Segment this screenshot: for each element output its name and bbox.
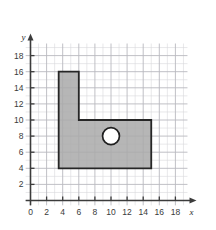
x-tick-label: 18 <box>171 207 181 217</box>
plot-canvas: 02468101214161824681012141618 xy <box>0 0 216 230</box>
y-tick-label: 10 <box>14 115 24 125</box>
x-tick-label: 16 <box>155 207 165 217</box>
x-tick-label: 8 <box>93 207 98 217</box>
y-tick-label: 14 <box>14 83 24 93</box>
circular-hole <box>103 128 120 145</box>
y-tick-label: 18 <box>14 51 24 61</box>
x-tick-label: 0 <box>28 207 33 217</box>
shapes-layer <box>59 72 152 169</box>
x-tick-label: 2 <box>44 207 49 217</box>
x-tick-label: 4 <box>60 207 65 217</box>
y-tick-label: 12 <box>14 99 24 109</box>
y-tick-label: 8 <box>19 131 24 141</box>
x-tick-label: 10 <box>106 207 116 217</box>
x-tick-label: 12 <box>122 207 132 217</box>
x-tick-label: 6 <box>76 207 81 217</box>
x-axis-label: x <box>188 207 193 217</box>
coordinate-grid-figure: 02468101214161824681012141618 xy <box>0 0 216 230</box>
y-tick-label: 4 <box>19 163 24 173</box>
x-tick-label: 14 <box>138 207 148 217</box>
y-axis-label: y <box>21 32 26 42</box>
l-shaped-region <box>59 72 152 169</box>
y-tick-label: 6 <box>19 147 24 157</box>
y-tick-label: 2 <box>19 179 24 189</box>
y-tick-label: 16 <box>14 67 24 77</box>
